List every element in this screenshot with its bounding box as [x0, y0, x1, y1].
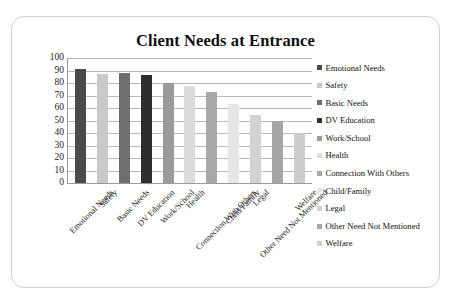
bar[interactable] [119, 73, 130, 183]
legend-label: Other Need Not Mentioned [326, 222, 420, 231]
bar-slot [223, 58, 245, 183]
legend-item[interactable]: Child/Family [317, 182, 437, 200]
y-axis-tick-label: 20 [55, 153, 69, 163]
chart-title: Client Needs at Entrance [12, 31, 439, 51]
legend-swatch-icon [317, 171, 322, 176]
legend-swatch-icon [317, 188, 322, 193]
legend-item[interactable]: Emotional Needs [317, 59, 437, 77]
y-axis-tick-label: 30 [55, 141, 69, 151]
bar-slot [114, 58, 136, 183]
x-label-slot: Work/School [157, 186, 179, 286]
bar-slot [135, 58, 157, 183]
legend-swatch-icon [317, 241, 322, 246]
legend-label: Safety [326, 81, 348, 90]
bar[interactable] [206, 92, 217, 183]
y-axis-tick-label: 100 [50, 53, 68, 63]
legend-item[interactable]: Health [317, 147, 437, 165]
legend-item[interactable]: Connection With Others [317, 165, 437, 183]
bar-slot [179, 58, 201, 183]
bar[interactable] [75, 69, 86, 183]
x-label-slot: Safety [91, 186, 113, 286]
legend-label: Emotional Needs [326, 64, 385, 73]
bar[interactable] [184, 86, 195, 183]
plot-area: 1009080706050403020100 [67, 58, 312, 184]
x-label-slot: Connection With Others [200, 186, 222, 286]
legend-label: Basic Needs [326, 99, 369, 108]
x-label-slot: Legal [244, 186, 266, 286]
legend-item[interactable]: Basic Needs [317, 94, 437, 112]
legend-label: Legal [326, 204, 346, 213]
legend-swatch-icon [317, 206, 322, 211]
legend-label: Health [326, 151, 349, 160]
legend-item[interactable]: Safety [317, 77, 437, 95]
legend-item[interactable]: Other Need Not Mentioned [317, 217, 437, 235]
y-axis-tick-label: 10 [55, 166, 69, 176]
bar[interactable] [250, 115, 261, 183]
legend-item[interactable]: Work/School [317, 129, 437, 147]
legend-swatch-icon [317, 136, 322, 141]
x-label-slot: Basic Needs [113, 186, 135, 286]
bar[interactable] [163, 83, 174, 183]
legend-label: Connection With Others [326, 169, 410, 178]
legend-swatch-icon [317, 224, 322, 229]
bar-slot [266, 58, 288, 183]
legend-label: DV Education [326, 116, 375, 125]
x-label-slot: Child/Family [222, 186, 244, 286]
plot-wrapper: 1009080706050403020100 Emotional NeedsSa… [30, 58, 312, 184]
bar-slot [157, 58, 179, 183]
legend-item[interactable]: Legal [317, 200, 437, 218]
bar-slot [201, 58, 223, 183]
y-axis-tick-label: 90 [55, 66, 69, 76]
bar-slot [70, 58, 92, 183]
x-label-slot: Emotional Needs [69, 186, 91, 286]
legend-swatch-icon [317, 83, 322, 88]
y-axis-tick-label: 40 [55, 128, 69, 138]
legend-item[interactable]: DV Education [317, 112, 437, 130]
x-label-slot: Other Need Not Mentioned [266, 186, 288, 286]
x-label-slot: Health [179, 186, 201, 286]
bar-slot [92, 58, 114, 183]
x-label-slot: DV Education [135, 186, 157, 286]
chart-legend: Emotional NeedsSafetyBasic NeedsDV Educa… [317, 59, 437, 253]
chart-card: Client Needs at Entrance 100908070605040… [11, 16, 440, 288]
bar[interactable] [141, 75, 152, 183]
y-axis-tick-label: 60 [55, 103, 69, 113]
y-axis-tick-label: 70 [55, 91, 69, 101]
bar[interactable] [97, 74, 108, 183]
legend-swatch-icon [317, 153, 322, 158]
legend-label: Child/Family [326, 187, 372, 196]
legend-swatch-icon [317, 118, 322, 123]
x-axis-tick-labels: Emotional NeedsSafetyBasic NeedsDV Educa… [67, 186, 312, 286]
legend-item[interactable]: Welfare [317, 235, 437, 253]
bar-slot [245, 58, 267, 183]
bar-slot [288, 58, 310, 183]
bar[interactable] [228, 104, 239, 183]
x-label-slot: Welfare [288, 186, 310, 286]
y-axis-tick-label: 80 [55, 78, 69, 88]
bar[interactable] [272, 121, 283, 183]
bar-series [68, 58, 312, 183]
bar[interactable] [294, 133, 305, 183]
legend-swatch-icon [317, 100, 322, 105]
y-axis-tick-label: 50 [55, 116, 69, 126]
legend-swatch-icon [317, 65, 322, 70]
legend-label: Welfare [326, 239, 353, 248]
legend-label: Work/School [326, 134, 371, 143]
